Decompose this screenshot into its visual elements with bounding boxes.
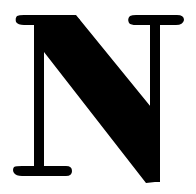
- glyph-canvas: N: [0, 0, 196, 194]
- letter-n-glyph: [0, 0, 196, 194]
